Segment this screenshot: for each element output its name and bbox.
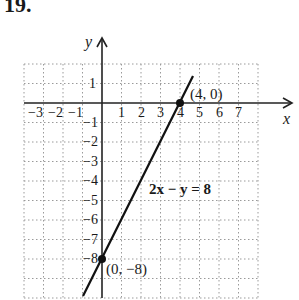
y-tick: −4 [83, 174, 98, 188]
point-0-neg8 [98, 255, 106, 263]
x-tick: −1 [68, 106, 83, 120]
equation-label: 2x − y = 8 [149, 181, 211, 198]
x-tick: 1 [118, 106, 125, 120]
x-axis-label: x [283, 112, 290, 126]
x-tick: −2 [48, 106, 63, 120]
y-tick: −1 [83, 116, 98, 130]
x-tick: −3 [28, 106, 43, 120]
x-tick: 3 [157, 106, 164, 120]
y-tick: −8 [83, 252, 98, 266]
point-label-0-neg8: (0, −8) [106, 262, 147, 276]
x-tick: 7 [235, 106, 242, 120]
x-tick: 2 [138, 106, 145, 120]
y-tick: −7 [83, 233, 98, 247]
y-tick: −2 [83, 135, 98, 149]
x-tick: 4 [177, 106, 184, 120]
x-tick: 6 [216, 106, 223, 120]
y-tick: 1 [89, 77, 96, 91]
x-tick: 5 [196, 106, 203, 120]
y-axis-label: y [85, 35, 92, 49]
y-tick: −5 [83, 194, 98, 208]
y-tick: −3 [83, 155, 98, 169]
y-tick: −6 [83, 213, 98, 227]
coordinate-graph [0, 0, 299, 300]
point-label-4-0: (4, 0) [190, 87, 223, 101]
